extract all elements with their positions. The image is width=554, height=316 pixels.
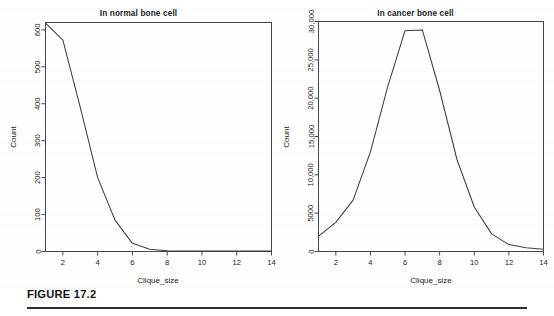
y-tick-label: 15,000 <box>307 125 316 148</box>
chart-panel-cancer-bone-cell: In cancer bone cell 0500010,00015,00020,… <box>277 0 554 288</box>
y-axis-title-cancer: Count <box>282 126 291 148</box>
figure-caption-block: FIGURE 17.2 <box>0 288 554 316</box>
chart-panel-normal-bone-cell: In normal bone cell 0100200300400500600 … <box>0 0 277 288</box>
x-tick-label: 4 <box>368 258 372 267</box>
x-tick-label: 4 <box>96 258 100 267</box>
y-tick-label: 30,000 <box>307 10 316 33</box>
x-tick-label: 6 <box>403 258 407 267</box>
x-tick-label: 14 <box>267 258 275 267</box>
x-tick-label: 8 <box>165 258 169 267</box>
x-tick-label: 14 <box>539 258 547 267</box>
x-tick-label: 10 <box>470 258 478 267</box>
y-tick-label: 300 <box>34 134 43 147</box>
x-tick-label: 10 <box>198 258 206 267</box>
y-tick-label: 400 <box>34 97 43 110</box>
line-chart-cancer: 0500010,00015,00020,00025,00030,000 2468… <box>277 0 554 288</box>
x-tick-label: 6 <box>130 258 134 267</box>
x-axis-title-normal: Clique_size <box>137 276 179 285</box>
y-tick-label: 600 <box>34 24 43 37</box>
y-tick-label: 20,000 <box>307 87 316 110</box>
y-tick-label: 5000 <box>307 205 316 222</box>
x-tick-label: 2 <box>334 258 338 267</box>
x-tick-label: 12 <box>233 258 241 267</box>
y-tick-label: 0 <box>34 249 43 253</box>
y-tick-label: 200 <box>34 171 43 184</box>
x-axis-title-cancer: Clique_size <box>410 276 452 285</box>
y-axis-title-normal: Count <box>9 126 18 148</box>
caption-divider <box>27 307 527 309</box>
y-tick-label: 10,000 <box>307 163 316 186</box>
figure-caption-label: FIGURE 17.2 <box>27 288 96 300</box>
figure-area: In normal bone cell 0100200300400500600 … <box>0 0 554 288</box>
line-chart-normal: 0100200300400500600 2468101214 Clique_si… <box>0 0 277 288</box>
y-tick-label: 100 <box>34 208 43 221</box>
y-tick-label: 25,000 <box>307 48 316 71</box>
x-tick-label: 2 <box>61 258 65 267</box>
x-tick-label: 8 <box>438 258 442 267</box>
y-tick-label: 0 <box>307 249 316 253</box>
y-tick-label: 500 <box>34 60 43 73</box>
x-tick-label: 12 <box>505 258 513 267</box>
